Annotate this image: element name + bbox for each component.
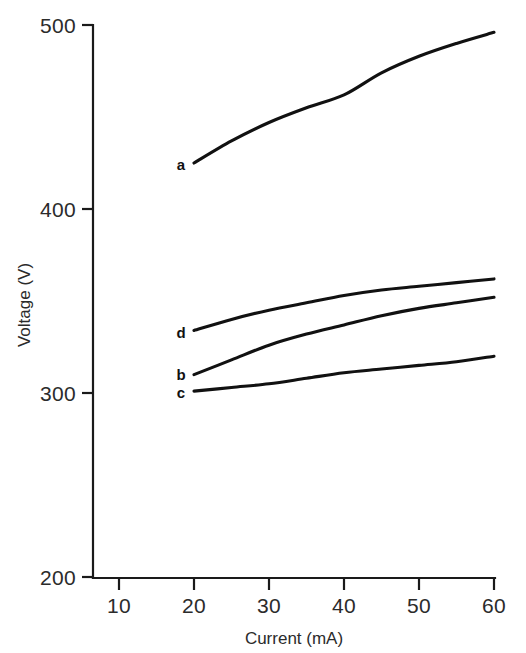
curve-labels-group: adbc xyxy=(176,156,185,401)
x-tick-label-50: 50 xyxy=(407,594,431,617)
y-tick-label-200: 200 xyxy=(40,566,76,589)
curve-label-a: a xyxy=(177,156,186,173)
y-tick-marks xyxy=(82,25,93,577)
curve-label-b: b xyxy=(176,366,185,383)
y-tick-labels: 500 400 300 200 xyxy=(40,14,76,589)
y-axis-title: Voltage (V) xyxy=(15,263,34,347)
x-axis-title: Current (mA) xyxy=(245,629,343,648)
x-tick-marks xyxy=(119,578,494,590)
data-curves-group xyxy=(194,32,494,391)
x-tick-label-20: 20 xyxy=(182,594,206,617)
curve-c xyxy=(194,356,494,391)
x-tick-label-10: 10 xyxy=(107,594,131,617)
y-tick-label-400: 400 xyxy=(40,198,76,221)
x-tick-label-30: 30 xyxy=(257,594,281,617)
curve-label-c: c xyxy=(177,384,185,401)
x-tick-label-60: 60 xyxy=(482,594,506,617)
axis-group xyxy=(93,25,495,578)
y-tick-label-300: 300 xyxy=(40,382,76,405)
line-chart-canvas: 500 400 300 200 10 20 30 40 50 60 Curren… xyxy=(0,0,526,653)
y-tick-label-500: 500 xyxy=(40,14,76,37)
curve-a xyxy=(194,32,494,163)
x-tick-label-40: 40 xyxy=(332,594,356,617)
x-tick-labels: 10 20 30 40 50 60 xyxy=(107,594,506,617)
chart-figure: 500 400 300 200 10 20 30 40 50 60 Curren… xyxy=(0,0,526,653)
curve-label-d: d xyxy=(176,324,185,341)
